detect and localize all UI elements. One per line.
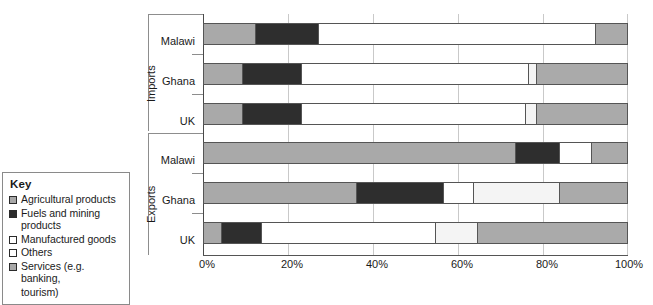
segment-others: [525, 104, 536, 124]
legend-item-others: Others: [9, 246, 124, 259]
segment-services: [477, 223, 627, 243]
segment-services: [536, 64, 627, 84]
segment-fuels: [242, 64, 301, 84]
gridline-80: [543, 14, 544, 255]
category-label-exports-malawi: Malawi: [105, 154, 195, 166]
category-label-imports-ghana: Ghana: [105, 75, 195, 87]
legend-label-manufactured: Manufactured goods: [21, 233, 116, 246]
segment-others: [528, 64, 536, 84]
segment-manufactured: [318, 24, 595, 44]
segment-others: [435, 223, 477, 243]
legend-item-services: Services (e.g. banking,: [9, 260, 124, 285]
segment-agricultural: [204, 143, 515, 163]
segment-manufactured: [301, 64, 527, 84]
x-tick-label-80: 80%: [536, 258, 558, 270]
fuels-swatch-icon: [9, 210, 17, 218]
segment-fuels: [356, 183, 443, 203]
gridline-60: [458, 14, 459, 255]
bar-row-exports-malawi: [203, 142, 628, 164]
bar-row-imports-ghana: [203, 63, 628, 85]
segment-services: [559, 183, 627, 203]
segment-services: [536, 104, 627, 124]
legend-item-services-cont: tourism): [9, 286, 124, 299]
legend-label-services-cont: tourism): [21, 286, 59, 299]
gridline-0: [203, 14, 204, 255]
segment-manufactured: [559, 143, 591, 163]
segment-agricultural: [204, 223, 221, 243]
category-label-imports-malawi: Malawi: [105, 35, 195, 47]
legend-title: Key: [10, 178, 124, 190]
bar-row-exports-ghana: [203, 182, 628, 204]
segment-fuels: [515, 143, 559, 163]
legend-label-others: Others: [21, 246, 52, 259]
legend-item-agricultural: Agricultural products: [9, 193, 124, 206]
gridline-100: [627, 14, 628, 255]
category-label-imports-uk: UK: [105, 115, 195, 127]
segment-fuels: [221, 223, 261, 243]
bar-row-imports-malawi: [203, 23, 628, 45]
segment-others: [473, 183, 560, 203]
segment-fuels: [255, 24, 318, 44]
spacer-icon: [9, 289, 17, 297]
legend-label-services: Services (e.g. banking,: [21, 260, 124, 285]
legend-item-fuels: Fuels and mining products: [9, 207, 124, 232]
x-tick-label-20: 20%: [281, 258, 303, 270]
chart-legend: Key Agricultural products Fuels and mini…: [2, 172, 130, 305]
legend-label-fuels: Fuels and mining products: [21, 207, 124, 232]
others-swatch-icon: [9, 249, 17, 257]
services-swatch-icon: [9, 263, 17, 271]
x-tick-label-100: 100%: [615, 258, 643, 270]
segment-agricultural: [204, 183, 356, 203]
segment-fuels: [242, 104, 301, 124]
segment-agricultural: [204, 104, 242, 124]
bar-row-exports-uk: [203, 222, 628, 244]
bar-row-imports-uk: [203, 103, 628, 125]
segment-manufactured: [443, 183, 473, 203]
x-tick-label-40: 40%: [366, 258, 388, 270]
segment-manufactured: [261, 223, 434, 243]
x-tick-label-0: 0%: [199, 258, 215, 270]
legend-label-agricultural: Agricultural products: [21, 193, 116, 206]
segment-services: [591, 143, 627, 163]
gridline-40: [373, 14, 374, 255]
agricultural-swatch-icon: [9, 196, 17, 204]
segment-agricultural: [204, 24, 255, 44]
segment-agricultural: [204, 64, 242, 84]
gridline-20: [288, 14, 289, 255]
plot-area: [203, 14, 628, 255]
x-tick-label-60: 60%: [451, 258, 473, 270]
legend-item-manufactured: Manufactured goods: [9, 233, 124, 246]
segment-services: [595, 24, 627, 44]
manufactured-swatch-icon: [9, 236, 17, 244]
segment-manufactured: [301, 104, 525, 124]
